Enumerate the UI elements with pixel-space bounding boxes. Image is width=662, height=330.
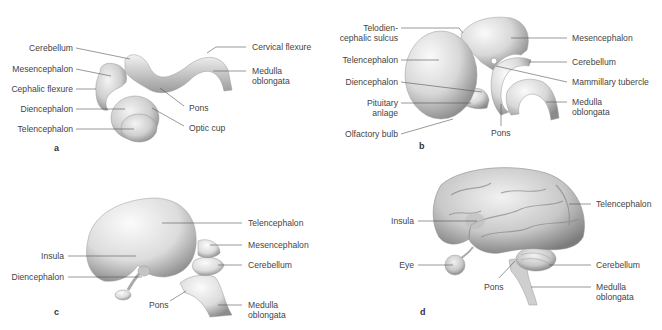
label-insula: Insula — [331, 216, 414, 226]
label-telencephalon: Telencephalon — [331, 55, 398, 65]
label-pons: Pons — [149, 300, 169, 310]
label-cervical-flexure: Cervical flexure — [252, 42, 311, 52]
label-cerebellum: Cerebellum — [14, 43, 73, 53]
label-mammillary-tubercle: Mammillary tubercle — [572, 77, 649, 87]
adult-brain-illustration-d — [331, 165, 662, 330]
label-pituitary-anlage-line1: Pituitary — [331, 98, 398, 108]
panel-d: Telencephalon Insula Eye Cerebellum Medu… — [331, 165, 662, 330]
label-eye: Eye — [331, 260, 414, 270]
label-medulla: Medulla — [596, 282, 626, 292]
label-telencephalon: Telencephalon — [596, 199, 651, 209]
label-oblongata: oblongata — [248, 310, 286, 320]
label-mesencephalon: Mesencephalon — [572, 33, 633, 43]
label-cerebellum: Cerebellum — [596, 260, 640, 270]
label-oblongata: oblongata — [596, 292, 634, 302]
label-cerebellum: Cerebellum — [572, 57, 616, 67]
label-oblongata: oblongata — [572, 107, 610, 117]
label-diencephalon: Diencephalon — [0, 272, 64, 282]
panel-b: Telodien- cephalic sulcus Telencephalon … — [331, 0, 662, 165]
label-olfactory-bulb: Olfactory bulb — [331, 129, 398, 139]
label-telencephalon: Telencephalon — [248, 218, 303, 228]
label-mesencephalon: Mesencephalon — [0, 64, 73, 74]
label-medulla: Medulla — [248, 300, 278, 310]
label-telodiencephalic-sulcus-line2: cephalic sulcus — [331, 33, 398, 43]
label-mesencephalon: Mesencephalon — [248, 240, 309, 250]
label-diencephalon: Diencephalon — [0, 104, 73, 114]
panel-letter-a: a — [54, 143, 59, 153]
label-diencephalon: Diencephalon — [331, 77, 398, 87]
label-oblongata: oblongata — [252, 76, 290, 86]
label-pituitary-anlage-line2: anlage — [331, 108, 398, 118]
panel-a: Cerebellum Mesencephalon Cephalic flexur… — [0, 0, 331, 165]
label-medulla: Medulla — [252, 66, 282, 76]
label-pons: Pons — [491, 128, 511, 138]
panel-letter-c: c — [54, 307, 59, 317]
panel-letter-b: b — [419, 141, 425, 151]
label-pons: Pons — [484, 282, 504, 292]
panel-c: Telencephalon Mesencephalon Cerebellum M… — [0, 165, 331, 330]
label-cerebellum: Cerebellum — [248, 260, 292, 270]
label-optic-cup: Optic cup — [189, 123, 225, 133]
label-pons: Pons — [189, 103, 209, 113]
label-telodiencephalic-sulcus-line1: Telodien- — [331, 23, 398, 33]
label-cephalic-flexure: Cephalic flexure — [0, 84, 73, 94]
label-medulla: Medulla — [572, 97, 602, 107]
label-telencephalon: Telencephalon — [0, 124, 73, 134]
panel-letter-d: d — [420, 307, 426, 317]
label-insula: Insula — [0, 251, 64, 261]
